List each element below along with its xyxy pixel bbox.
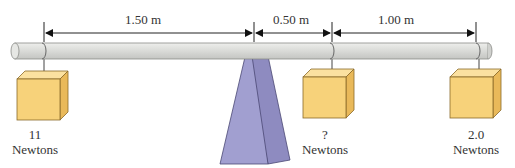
fulcrum — [220, 56, 290, 164]
lever-bar — [11, 43, 492, 59]
right-block — [450, 69, 501, 118]
lever-diagram: 1.50 m 0.50 m 1.00 m 11 Newtons ? Newton… — [0, 0, 515, 168]
lever-diagram-graphic — [0, 0, 515, 168]
right-weight-unit: Newtons — [451, 142, 501, 157]
dimension-label-right-span: 1.00 m — [378, 12, 414, 28]
right-weight-label: 2.0 Newtons — [451, 127, 501, 157]
dimension-label-middle-span: 0.50 m — [273, 12, 309, 28]
middle-weight-value: ? — [300, 127, 350, 142]
right-weight-value: 2.0 — [451, 127, 501, 142]
dimension-label-left-span: 1.50 m — [125, 12, 161, 28]
left-weight-label: 11 Newtons — [10, 127, 60, 157]
left-weight-value: 11 — [10, 127, 60, 142]
left-block — [17, 71, 68, 120]
middle-weight-label: ? Newtons — [300, 127, 350, 157]
left-weight-unit: Newtons — [10, 142, 60, 157]
middle-block — [303, 69, 354, 118]
middle-weight-unit: Newtons — [300, 142, 350, 157]
